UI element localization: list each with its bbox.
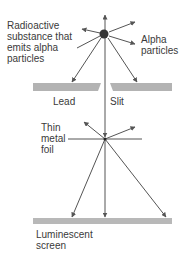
alpha-arrow-upper-left: [82, 29, 100, 33]
lead-plate-left: [33, 83, 101, 91]
alpha-arrow-upper-right: [109, 22, 135, 32]
alpha-arrow-right: [109, 36, 135, 44]
label-lead: Lead: [53, 96, 75, 107]
lead-plate-right: [110, 83, 172, 91]
alpha-arrow-to-left-plate: [72, 38, 101, 82]
alpha-arrow-to-right-plate: [108, 38, 137, 82]
scatter-arrow-down-left: [72, 139, 105, 217]
foil-impact-point: [104, 138, 107, 141]
luminescent-screen: [33, 218, 172, 224]
label-luminescent-screen: Luminescent screen: [36, 229, 93, 251]
scatter-arrow-back-right: [105, 127, 135, 139]
label-thin-metal-foil: Thin metal foil: [41, 122, 65, 155]
scatter-arrow-down-right: [105, 139, 166, 217]
radioactive-source: [100, 30, 109, 39]
scatter-arrow-back-left: [84, 122, 105, 139]
source-pointer-line: [77, 36, 100, 48]
label-alpha-particles: Alpha particles: [141, 34, 178, 56]
label-source: Radioactive substance that emits alpha p…: [7, 20, 72, 64]
label-slit: Slit: [110, 96, 124, 107]
